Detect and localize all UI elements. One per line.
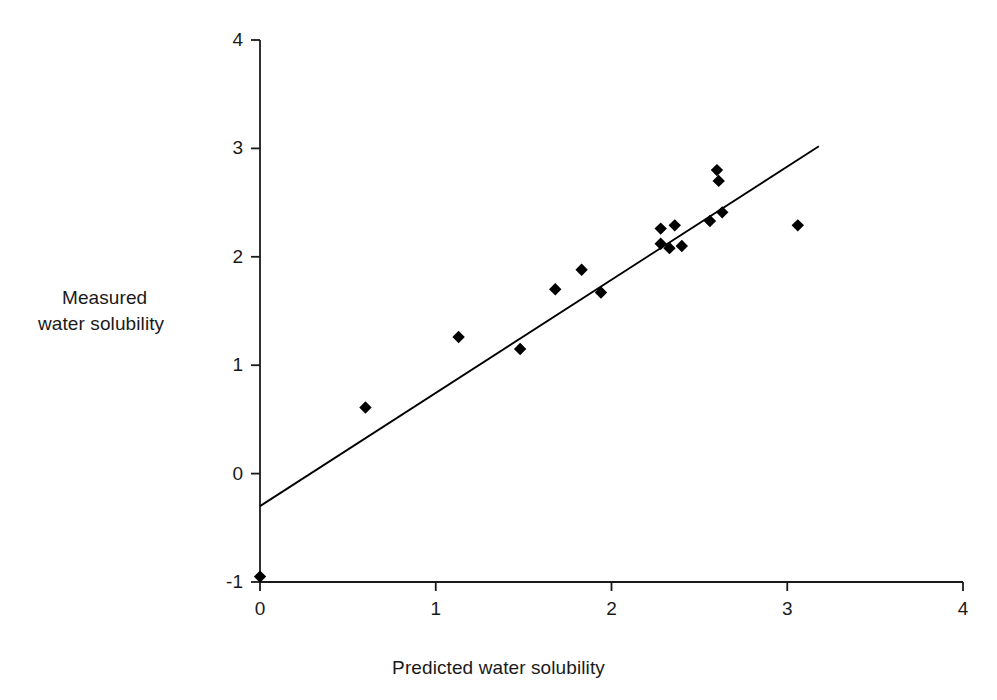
y-tick-label: 4	[232, 29, 243, 51]
y-axis-label-line: Measured	[38, 285, 164, 311]
data-point-marker	[514, 343, 526, 355]
data-point-marker	[704, 215, 716, 227]
regression-line	[260, 146, 819, 506]
axes	[260, 40, 963, 582]
y-axis-label: Measuredwater solubility	[38, 285, 164, 337]
data-point-marker	[655, 222, 667, 234]
data-point-marker	[716, 206, 728, 218]
data-point-marker	[792, 219, 804, 231]
trend-line	[260, 146, 819, 506]
data-point-marker	[595, 286, 607, 298]
data-point-marker	[676, 240, 688, 252]
data-point-marker	[452, 331, 464, 343]
data-point-marker	[575, 264, 587, 276]
x-tick-label: 3	[782, 598, 793, 620]
y-axis-ticks	[251, 40, 260, 582]
y-tick-label: 2	[232, 246, 243, 268]
x-tick-label: 4	[958, 598, 969, 620]
data-point-marker	[549, 283, 561, 295]
data-point-marker	[713, 175, 725, 187]
x-tick-label: 0	[255, 598, 266, 620]
scatter-plot-figure: Measuredwater solubility Predicted water…	[0, 0, 997, 700]
data-points	[254, 164, 804, 583]
data-point-marker	[711, 164, 723, 176]
data-point-marker	[359, 401, 371, 413]
x-axis-ticks	[260, 582, 963, 591]
y-tick-label: -1	[226, 571, 243, 593]
y-axis-label-line: water solubility	[38, 311, 164, 337]
data-point-marker	[669, 219, 681, 231]
y-tick-label: 3	[232, 137, 243, 159]
data-point-marker	[254, 570, 266, 582]
y-tick-label: 1	[232, 354, 243, 376]
x-tick-label: 2	[606, 598, 617, 620]
x-axis-label: Predicted water solubility	[0, 655, 997, 681]
plot-canvas	[0, 0, 997, 700]
x-tick-label: 1	[430, 598, 441, 620]
y-tick-label: 0	[232, 463, 243, 485]
